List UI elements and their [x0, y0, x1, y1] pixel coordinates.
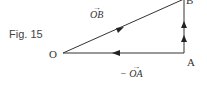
point-b-label: B [186, 0, 193, 6]
arrow-up-icon [181, 35, 187, 42]
arrow-right-icon [116, 27, 124, 33]
arrow-left-icon [112, 50, 120, 56]
vector-neg-oa-text: − OA [120, 68, 143, 79]
vector-ob-label: → OB [90, 4, 103, 20]
segment-ob [63, 0, 184, 53]
vector-triangle-diagram [0, 0, 207, 92]
point-a-label: A [187, 57, 195, 68]
arrow-up-icon [181, 21, 187, 28]
vector-ob-text: OB [90, 9, 103, 20]
point-o-label: O [49, 49, 57, 60]
vector-neg-oa-label: → − OA [120, 63, 143, 79]
